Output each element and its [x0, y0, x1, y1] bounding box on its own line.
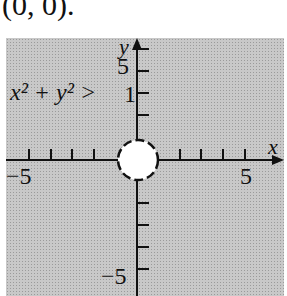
- y-tick-label-neg5: −5: [101, 264, 127, 288]
- coordinate-axes: [0, 0, 287, 296]
- unit-circle: [118, 140, 158, 180]
- y-tick-label-1: 1: [124, 82, 136, 106]
- x-tick-label-neg5: −5: [6, 164, 32, 188]
- y-tick-label-5: 5: [117, 54, 129, 78]
- x-axis-label: x: [268, 136, 278, 158]
- x-tick-label-5: 5: [240, 164, 252, 188]
- inequality-label: x² + y² >: [10, 80, 96, 104]
